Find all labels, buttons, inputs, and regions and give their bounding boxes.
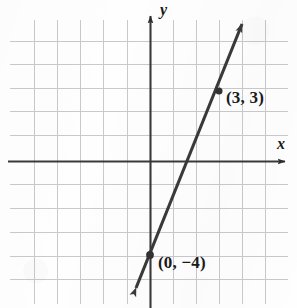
plot-point-0-neg4: [146, 251, 154, 259]
plot-point-3-3: [216, 88, 223, 95]
graph-canvas: [0, 0, 297, 308]
y-axis-label: y: [160, 1, 167, 19]
figure-background: [0, 0, 297, 308]
point-label-0-neg4: (0, −4): [158, 253, 206, 273]
point-label-3-3: (3, 3): [226, 88, 264, 108]
coordinate-plane-figure: (3, 3) (0, −4) y x: [0, 0, 297, 308]
x-axis-label: x: [277, 135, 285, 153]
